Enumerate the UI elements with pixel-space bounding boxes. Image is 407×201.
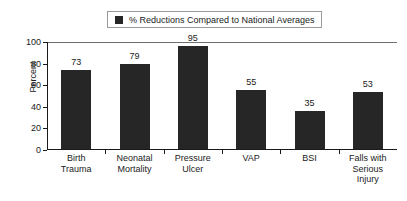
y-tick-label: 100 [26,38,41,47]
bar-value-label: 55 [231,78,271,87]
x-category-label: VAP [222,153,280,164]
y-tick-mark [43,150,47,151]
y-tick-label: 0 [36,146,41,155]
bar [295,111,325,149]
top-rule [47,42,397,43]
bar [120,64,150,149]
y-tick-mark [43,42,47,43]
x-category-label: Falls with Serious Injury [339,153,397,185]
bar-value-label: 95 [173,34,213,43]
y-tick-mark [43,64,47,65]
x-category-label: Pressure Ulcer [164,153,222,174]
bar [178,46,208,149]
chart-legend: % Reductions Compared to National Averag… [107,11,322,28]
bar-value-label: 35 [290,99,330,108]
y-tick-mark [43,128,47,129]
x-category-label: Neonatal Mortality [105,153,163,174]
bar [236,90,266,149]
y-tick-label: 40 [31,102,41,111]
bar-value-label: 79 [115,52,155,61]
bar [353,92,383,149]
bar-chart: % Reductions Compared to National Averag… [0,0,407,201]
y-tick-label: 20 [31,124,41,133]
y-tick-label: 80 [31,59,41,68]
y-axis-line [47,42,48,150]
legend-label: % Reductions Compared to National Averag… [129,15,314,25]
bar-value-label: 53 [348,80,388,89]
plot-area: 020406080100 737995553553 [47,42,397,150]
x-category-label: BSI [280,153,338,164]
x-category-label: Birth Trauma [47,153,105,174]
y-tick-mark [43,85,47,86]
legend-swatch-icon [115,16,123,24]
bar-value-label: 73 [56,58,96,67]
y-tick-label: 60 [31,81,41,90]
bar [61,70,91,149]
y-tick-mark [43,107,47,108]
